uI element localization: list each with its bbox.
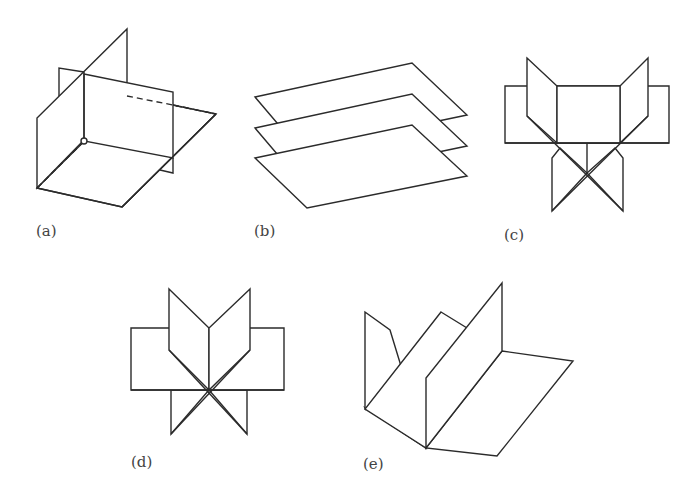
- panel-d-diagram: [131, 289, 284, 434]
- panel-a-diagram: [37, 29, 216, 207]
- panel-e-label: (e): [363, 457, 384, 472]
- panel-c-label: (c): [504, 228, 524, 243]
- figure-canvas: [0, 0, 699, 486]
- panel-c-diagram: [505, 58, 669, 211]
- panel-b-diagram: [255, 63, 467, 208]
- panel-c-center-plane: [557, 86, 620, 143]
- panel-d-label: (d): [131, 455, 152, 470]
- panel-a-label: (a): [36, 224, 57, 239]
- panel-b-label: (b): [254, 224, 275, 239]
- panel-a-origin-point: [81, 138, 87, 144]
- panel-e-diagram: [365, 283, 573, 456]
- panel-c-lower-right-flap: [587, 148, 623, 211]
